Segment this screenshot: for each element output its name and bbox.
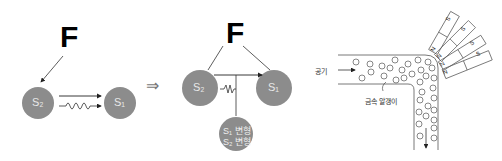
substance-s2-label: S₂ [32,96,44,108]
harmful-action-wave [59,103,101,109]
implies-symbol: ⇒ [146,76,159,95]
pipe-inner-wall [338,84,414,150]
modified-s2-label: S₂ 변형 [223,135,251,148]
substance-s1-label: S₁ [114,96,125,108]
force-label-2: F [226,16,244,50]
force-line-left [208,46,223,70]
metal-particles-label: 금속 알갱이 [365,96,397,106]
substance-s2-label-2: S₂ [193,81,205,93]
force-label-1: F [60,20,78,54]
substance-s1-label-2: S₁ [268,81,279,93]
particle-pointer [382,82,386,91]
force-arrow [41,56,63,82]
harmful-zigzag-2 [220,85,236,93]
force-line-right [243,46,270,70]
air-label: 공기 [315,66,327,76]
